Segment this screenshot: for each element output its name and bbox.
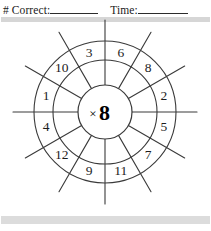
header-divider [1, 17, 210, 22]
wheel-diagram: 682571191241103 × 8 [0, 0, 211, 231]
correct-answer-blank[interactable] [50, 2, 98, 14]
wheel-middle-circle [53, 60, 157, 164]
wheel-segment-number: 7 [145, 147, 152, 162]
wheel-segment-number: 6 [117, 45, 124, 60]
wheel-inner-circle [78, 85, 132, 139]
wheel-segment-number: 2 [161, 88, 168, 103]
wheel-segment-number: 10 [55, 60, 69, 75]
wheel-spoke [25, 126, 81, 159]
wheel-segment-number: 11 [114, 163, 127, 178]
wheel-spokes [13, 20, 197, 204]
wheel-segment-number: 12 [55, 147, 69, 162]
time-label: Time: [110, 3, 138, 17]
wheel-segment-number: 4 [43, 119, 50, 134]
wheel-segment-number: 8 [145, 60, 152, 75]
wheel-spoke [128, 126, 184, 159]
footer-divider [1, 216, 210, 224]
worksheet-header: # Correct: Time: [0, 0, 211, 18]
wheel-spoke [119, 32, 152, 88]
worksheet-page: # Correct: Time: 682571191241103 × 8 [0, 0, 211, 231]
wheel-spoke [59, 32, 92, 88]
wheel-spoke [119, 135, 152, 191]
time-field: Time: [110, 2, 188, 17]
wheel-segment-number: 5 [161, 119, 168, 134]
center-operator: × [89, 106, 96, 121]
wheel-segment-number: 3 [86, 45, 93, 60]
center-factor: 8 [99, 100, 110, 125]
correct-label: # Correct: [3, 3, 50, 17]
wheel-spoke [59, 135, 92, 191]
multiplication-wheel: 682571191241103 × 8 [0, 0, 211, 231]
wheel-spoke [128, 66, 184, 99]
wheel-segment-number: 9 [86, 163, 93, 178]
time-answer-blank[interactable] [138, 2, 188, 14]
wheel-segment-labels: 682571191241103 [43, 45, 168, 178]
wheel-outer-circle [34, 41, 176, 183]
wheel-segment-number: 1 [43, 88, 50, 103]
correct-field: # Correct: [3, 2, 98, 17]
wheel-spoke [25, 66, 81, 99]
